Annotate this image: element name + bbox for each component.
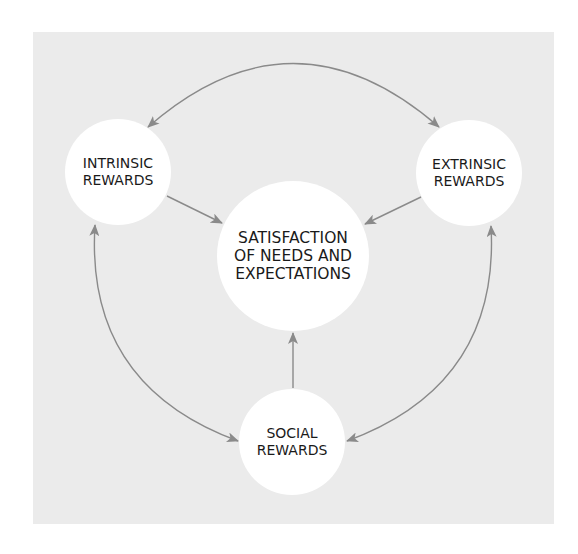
arrow-intrinsic-center [167,196,222,223]
arrow-intrinsic-extrinsic [148,64,439,128]
node-label-line: SOCIAL [266,425,317,442]
node-satisfaction: SATISFACTION OF NEEDS AND EXPECTATIONS [217,181,369,331]
node-label-line: REWARDS [434,173,505,190]
node-label-line: INTRINSIC [83,155,153,172]
node-label-line: REWARDS [83,172,154,189]
node-label-line: EXPECTATIONS [235,265,351,283]
node-label-line: OF NEEDS AND [234,247,352,265]
node-label-line: REWARDS [257,442,328,459]
node-label-line: SATISFACTION [238,229,348,247]
node-extrinsic-rewards: EXTRINSIC REWARDS [416,120,522,226]
node-intrinsic-rewards: INTRINSIC REWARDS [65,119,171,225]
node-label-line: EXTRINSIC [432,156,506,173]
node-social-rewards: SOCIAL REWARDS [239,389,345,495]
arrow-extrinsic-center [365,197,421,224]
